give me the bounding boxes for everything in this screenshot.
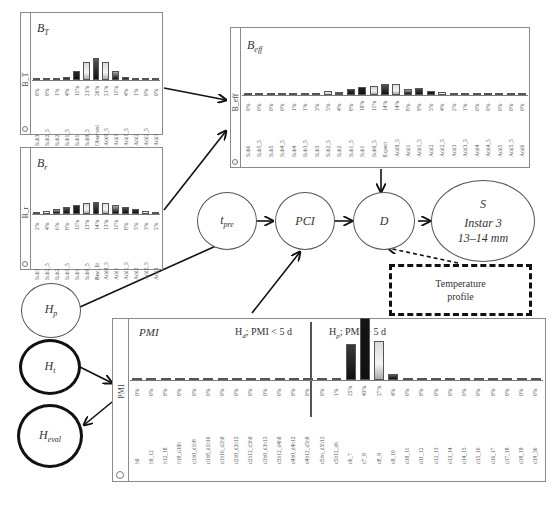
bt-bar-chart: 0%Sub30%Sub2_51%Sub24%Sub1_511%Sub121%Su… bbox=[32, 53, 160, 113]
bar bbox=[43, 211, 50, 214]
temperature-profile-box[interactable]: Temperature profile bbox=[389, 264, 532, 316]
bar bbox=[255, 93, 263, 95]
bar-value-label: 13% bbox=[103, 220, 109, 230]
bar bbox=[431, 378, 441, 380]
bar-value-label: 0% bbox=[205, 389, 211, 396]
bar bbox=[275, 378, 285, 380]
bar-value-label: 8% bbox=[405, 104, 411, 111]
hp-annotation: Hp; PMI > 5 d bbox=[329, 326, 386, 340]
bar-value-label: 0% bbox=[404, 389, 410, 396]
y-axis-label: B_eff bbox=[231, 93, 240, 113]
bar-value-label: 0% bbox=[44, 89, 50, 96]
br-bar-chart: 2%Sub34%Sub2_56%Sub28%Sub1_511%Sub113%Su… bbox=[32, 188, 160, 246]
category-label: d3h0_d3h12 bbox=[262, 437, 268, 465]
category-label: d11_12 bbox=[418, 448, 424, 464]
bar-value-label: 1% bbox=[302, 104, 308, 111]
bar bbox=[461, 93, 469, 95]
panel-side-strip: PMI bbox=[113, 319, 129, 481]
bar-value-label: 4% bbox=[336, 104, 342, 111]
radio-toggle-icon[interactable] bbox=[116, 471, 124, 479]
bar bbox=[142, 78, 149, 80]
pmi-distribution-panel: PMI PMI Hd; PMI < 5 d Hp; PMI > 5 d 0%h0… bbox=[112, 318, 546, 482]
bar-value-label: 11% bbox=[74, 86, 80, 96]
y-axis-label: B_r bbox=[21, 203, 30, 223]
bar bbox=[531, 378, 541, 380]
bar bbox=[488, 378, 498, 380]
bar bbox=[317, 378, 327, 380]
radio-toggle-icon[interactable] bbox=[22, 126, 28, 132]
bars-container bbox=[130, 341, 543, 380]
node-label: PCI bbox=[295, 214, 314, 229]
bar bbox=[146, 378, 156, 380]
bar bbox=[53, 209, 60, 214]
bar bbox=[63, 207, 70, 214]
bar-value-label: 0% bbox=[418, 389, 424, 396]
bar-value-label: 0% bbox=[474, 104, 480, 111]
bar-value-label: 0% bbox=[433, 389, 439, 396]
bars-container bbox=[32, 53, 160, 80]
bar-value-label: 5% bbox=[325, 104, 331, 111]
node-d[interactable]: D bbox=[353, 192, 415, 250]
category-label: Sub4_5 bbox=[279, 140, 285, 157]
bar bbox=[142, 211, 149, 214]
bar bbox=[132, 78, 139, 80]
bar bbox=[232, 378, 242, 380]
radio-toggle-icon[interactable] bbox=[232, 159, 238, 165]
beff-bar-chart: 0%Sub60%Sub5_50%Sub50%Sub4_51%Sub41%Sub3… bbox=[242, 68, 528, 128]
category-label: Add1 bbox=[405, 145, 411, 157]
bar bbox=[53, 78, 60, 80]
bar-value-label: 1% bbox=[54, 89, 60, 96]
panel-title: BT bbox=[37, 21, 49, 37]
category-label: Sub5 bbox=[268, 146, 274, 157]
bar bbox=[346, 344, 356, 380]
radio-toggle-icon[interactable] bbox=[22, 261, 28, 267]
br-distribution-panel: B_r Br 2%Sub34%Sub2_56%Sub28%Sub1_511%Su… bbox=[20, 147, 163, 270]
node-label: tpre bbox=[220, 213, 234, 229]
bar bbox=[360, 318, 370, 380]
bar-value-label: 43% bbox=[361, 386, 367, 396]
bar bbox=[218, 378, 228, 380]
temperature-profile-label: Temperature profile bbox=[435, 277, 485, 303]
bar bbox=[102, 62, 109, 80]
node-pci[interactable]: PCI bbox=[275, 192, 335, 250]
bar-value-label: 1% bbox=[333, 389, 339, 396]
category-label: Best_fit bbox=[94, 263, 100, 280]
bar-value-label: 0% bbox=[504, 389, 510, 396]
bar bbox=[332, 378, 342, 380]
category-label: Sub2 bbox=[336, 146, 342, 157]
node-h-t[interactable]: Ht bbox=[19, 339, 81, 395]
category-label: d7_8 bbox=[361, 453, 367, 464]
node-t-pre[interactable]: tpre bbox=[197, 192, 257, 250]
bar bbox=[518, 93, 526, 95]
bar bbox=[460, 378, 470, 380]
node-h-eval[interactable]: Heval bbox=[17, 404, 83, 468]
bar-value-label: 27% bbox=[376, 386, 382, 396]
bar-value-label: 0% bbox=[219, 389, 225, 396]
category-label: Sub3 bbox=[314, 146, 320, 157]
bar-value-label: 0% bbox=[475, 389, 481, 396]
bar-value-label: 3% bbox=[314, 104, 320, 111]
category-label: Sub0_5 bbox=[84, 129, 90, 146]
bar-value-label: 21% bbox=[84, 86, 90, 96]
bar-value-label: 5% bbox=[133, 223, 139, 230]
bar bbox=[324, 91, 332, 95]
bar-value-label: 0% bbox=[176, 389, 182, 396]
bar-value-label: 3% bbox=[143, 223, 149, 230]
hd-annotation: Hd; PMI < 5 d bbox=[235, 326, 292, 340]
bar-value-label: 14% bbox=[382, 101, 388, 111]
bar-value-label: 4% bbox=[439, 104, 445, 111]
bar bbox=[403, 378, 413, 380]
node-s[interactable]: S Instar 3 13–14 mm bbox=[431, 180, 535, 262]
category-label: Observed bbox=[94, 125, 100, 146]
category-label: Add1 bbox=[113, 268, 119, 280]
category-label: d15_16 bbox=[475, 448, 481, 465]
category-label: h18_d10h bbox=[176, 442, 182, 464]
category-label: Sub3 bbox=[34, 135, 40, 146]
y-axis-label: PMI bbox=[117, 382, 126, 402]
bar-value-label: 14% bbox=[394, 101, 400, 111]
bar bbox=[83, 203, 90, 214]
bar bbox=[246, 378, 256, 380]
bar-value-label: 8% bbox=[348, 104, 354, 111]
node-h-p[interactable]: Hp bbox=[21, 283, 81, 338]
bar-value-label: 0% bbox=[245, 104, 251, 111]
